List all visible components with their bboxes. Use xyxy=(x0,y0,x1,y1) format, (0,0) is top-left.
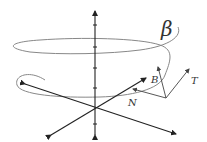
helix-curve xyxy=(13,27,178,97)
normal-vector xyxy=(133,89,166,98)
x-axis xyxy=(25,84,176,134)
diagram-svg: β B N T xyxy=(0,0,207,142)
binormal-label: B xyxy=(150,74,158,85)
frenet-frame xyxy=(133,67,189,98)
helix-diagram: β B N T xyxy=(0,0,207,142)
tangent-vector xyxy=(166,69,189,98)
curve-label: β xyxy=(160,17,173,41)
normal-label: N xyxy=(127,97,138,108)
tangent-label: T xyxy=(191,75,199,86)
